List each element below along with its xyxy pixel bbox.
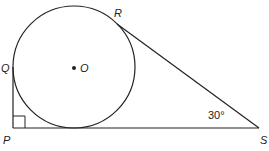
label-o: O xyxy=(80,62,89,74)
label-s: S xyxy=(260,134,268,146)
angle-label-s: 30° xyxy=(208,109,225,121)
right-angle-marker xyxy=(13,116,25,128)
segment-rs xyxy=(117,24,259,128)
label-p: P xyxy=(3,134,11,146)
center-point-o xyxy=(72,66,76,70)
geometry-diagram: R Q P O S 30° xyxy=(0,0,269,151)
label-q: Q xyxy=(1,62,10,74)
label-r: R xyxy=(114,7,122,19)
